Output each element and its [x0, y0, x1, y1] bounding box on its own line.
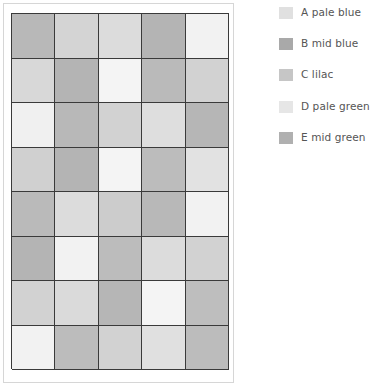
legend-label-b: B mid blue — [301, 37, 358, 49]
grid-cell — [12, 14, 55, 59]
grid-cell — [99, 14, 142, 59]
grid-cell — [99, 148, 142, 193]
grid-cell — [142, 59, 185, 104]
legend-item-a: A pale blue — [279, 7, 369, 23]
grid-cell — [55, 14, 98, 59]
grid-cell — [55, 281, 98, 326]
grid-cell — [186, 148, 229, 193]
legend-label-c: C lilac — [301, 68, 333, 80]
grid-cell — [186, 192, 229, 237]
swatch-e — [279, 132, 293, 144]
grid-cell — [12, 148, 55, 193]
grid-cell — [142, 14, 185, 59]
color-grid — [11, 13, 229, 369]
swatch-c — [279, 69, 293, 81]
grid-cell — [186, 326, 229, 371]
legend-item-e: E mid green — [279, 132, 369, 148]
legend-label-d: D pale green — [301, 100, 370, 112]
grid-cell — [99, 281, 142, 326]
swatch-a — [279, 7, 293, 19]
grid-cell — [99, 103, 142, 148]
grid-cell — [55, 237, 98, 282]
legend-item-b: B mid blue — [279, 38, 369, 54]
grid-cell — [12, 103, 55, 148]
grid-cell — [12, 237, 55, 282]
grid-cell — [142, 103, 185, 148]
grid-cell — [186, 103, 229, 148]
grid-cell — [142, 326, 185, 371]
grid-cell — [186, 14, 229, 59]
grid-cell — [55, 103, 98, 148]
grid-cell — [99, 192, 142, 237]
legend-item-d: D pale green — [279, 101, 369, 117]
grid-cell — [142, 237, 185, 282]
grid-cell — [99, 237, 142, 282]
grid-cell — [55, 192, 98, 237]
grid-cell — [55, 59, 98, 104]
grid-cell — [12, 59, 55, 104]
grid-cell — [12, 192, 55, 237]
grid-cell — [186, 237, 229, 282]
grid-cell — [186, 59, 229, 104]
grid-cell — [12, 326, 55, 371]
legend-label-a: A pale blue — [301, 6, 361, 18]
grid-cell — [55, 148, 98, 193]
grid-cell — [99, 326, 142, 371]
legend-label-e: E mid green — [301, 131, 366, 143]
legend-item-c: C lilac — [279, 69, 369, 85]
grid-cell — [55, 326, 98, 371]
grid-cell — [142, 148, 185, 193]
swatch-b — [279, 38, 293, 50]
grid-cell — [142, 192, 185, 237]
swatch-d — [279, 101, 293, 113]
grid-cell — [186, 281, 229, 326]
grid-cell — [99, 59, 142, 104]
grid-cell — [12, 281, 55, 326]
grid-cell — [142, 281, 185, 326]
